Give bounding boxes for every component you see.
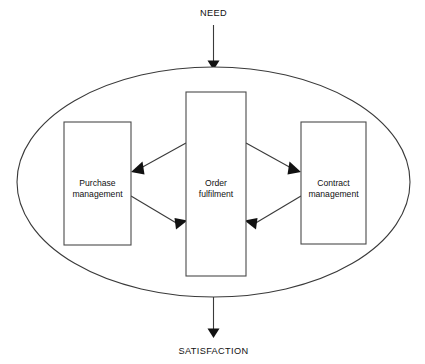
purchase-management-label-line1: Purchase: [79, 178, 116, 188]
contract-management-label-line1: Contract: [317, 178, 350, 188]
diagram-canvas: NEED Purchase management: [0, 0, 425, 364]
box-purchase-management[interactable]: Purchase management: [64, 122, 131, 245]
need-label: NEED: [200, 8, 227, 18]
procurement-cycle-diagram: NEED Purchase management: [0, 0, 425, 364]
need-input-arrow: [208, 25, 220, 70]
purchase-management-label-line2: management: [72, 189, 123, 199]
order-fulfilment-label-line1: Order: [205, 178, 227, 188]
contract-management-label-line2: management: [308, 189, 359, 199]
order-fulfilment-label-line2: fulfilment: [199, 189, 234, 199]
box-order-fulfilment[interactable]: Order fulfilment: [186, 92, 246, 276]
satisfaction-output-arrow: [208, 297, 220, 338]
satisfaction-label: SATISFACTION: [179, 346, 249, 356]
box-contract-management[interactable]: Contract management: [301, 122, 366, 244]
satisfaction-arrow-head: [208, 329, 220, 339]
